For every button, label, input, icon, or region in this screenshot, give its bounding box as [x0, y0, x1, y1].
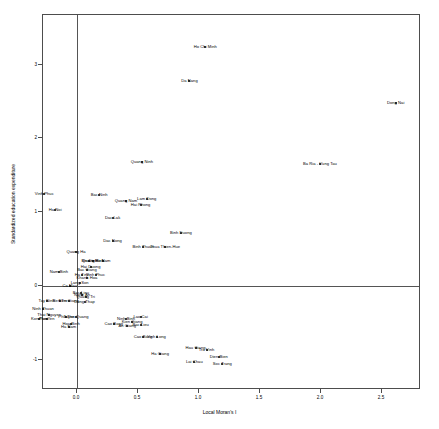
x-tick — [320, 389, 321, 393]
point-label: Hai Phong — [131, 202, 151, 207]
point-label: Dien Bien — [210, 355, 228, 360]
y-tick-label: 3 — [27, 61, 37, 66]
horizontal-reference-line — [43, 286, 419, 287]
point-label: Ho Chi Minh — [194, 44, 217, 49]
point-label: Da Nang — [181, 79, 198, 84]
vertical-reference-line — [77, 15, 78, 388]
point-label: Tra Vinh — [199, 348, 215, 353]
x-axis-label: Local Moran's I — [0, 409, 439, 415]
point-label: Tuyen Quang — [63, 315, 88, 320]
point-label: Lam Dong — [137, 196, 156, 201]
point-label: Vinh Phuc — [35, 192, 54, 197]
y-tick — [38, 211, 42, 212]
point-label: Dac Lak — [105, 216, 120, 221]
x-tick — [137, 389, 138, 393]
x-tick — [76, 389, 77, 393]
x-tick-label: 0.0 — [73, 395, 79, 400]
point-label: Phu Yen — [39, 317, 55, 322]
y-tick — [38, 137, 42, 138]
y-tick-label: 0 — [27, 283, 37, 288]
point-label: Lai Chau — [186, 359, 203, 364]
x-tick-label: 1.5 — [256, 395, 262, 400]
x-tick-label: 2.5 — [378, 395, 384, 400]
point-label: Ha Nam — [61, 325, 76, 330]
y-tick — [38, 64, 42, 65]
y-tick — [38, 285, 42, 286]
point-label: Dong Thap — [74, 300, 95, 305]
point-label: Quang Ninh — [131, 160, 153, 165]
point-label: Binh Duong — [170, 231, 192, 236]
x-tick-label: 1.0 — [195, 395, 201, 400]
point-label: Dac Nong — [103, 239, 122, 244]
y-axis-label: Standardized education expenditure — [10, 144, 16, 264]
x-tick — [259, 389, 260, 393]
y-tick — [38, 359, 42, 360]
point-label: Bac Ninh — [91, 193, 108, 198]
point-label: Ba Ria - Vung Tau — [303, 162, 337, 167]
x-tick — [198, 389, 199, 393]
point-label: Bac Lieu — [132, 323, 148, 328]
point-label: Ha Giang — [151, 352, 169, 357]
x-tick — [381, 389, 382, 393]
point-label: Ha Nam — [95, 258, 110, 263]
point-label: Ha Noi — [49, 207, 62, 212]
y-tick-label: 1 — [27, 209, 37, 214]
point-label: Soc Trang — [213, 362, 232, 367]
point-label: Quang Ha — [66, 249, 85, 254]
point-label: Ca Mau — [63, 284, 78, 289]
y-tick-label: 2 — [27, 135, 37, 140]
point-label: Nam Binh — [50, 270, 68, 275]
y-tick-label: -1 — [27, 356, 37, 361]
x-tick-label: 0.5 — [134, 395, 140, 400]
point-label: Dong Nai — [387, 100, 404, 105]
moran-scatterplot: Ho Chi MinhDa NangDong NaiBa Ria - Vung … — [0, 0, 439, 429]
point-label: Vinh Long — [147, 334, 166, 339]
point-label: Thua Thien-Hue — [150, 244, 180, 249]
plot-panel — [42, 14, 420, 389]
x-tick-label: 2.0 — [317, 395, 323, 400]
